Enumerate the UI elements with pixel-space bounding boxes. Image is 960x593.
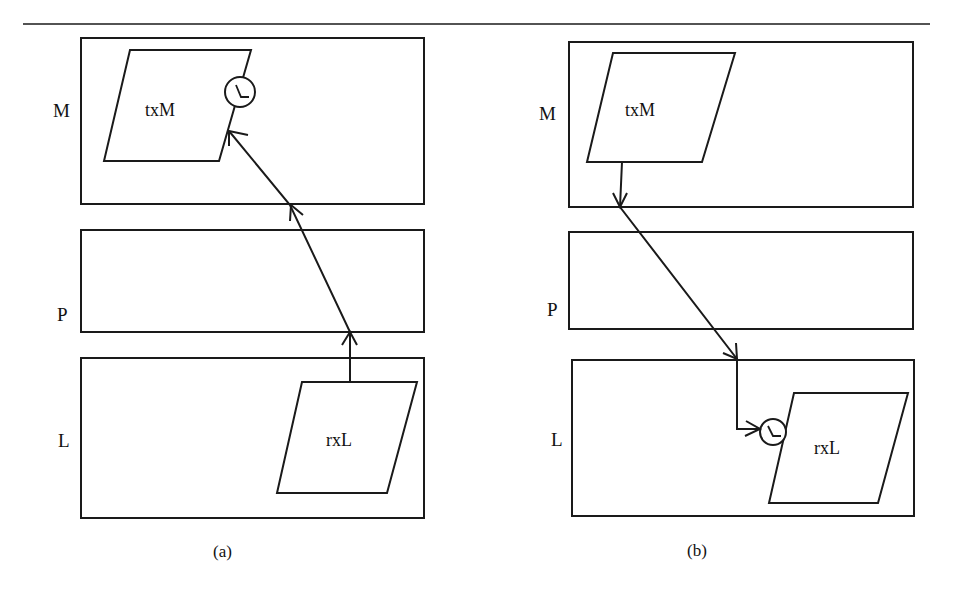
signal-path bbox=[229, 131, 350, 383]
layer-label-p: P bbox=[57, 304, 68, 325]
layer-label-m: M bbox=[539, 103, 556, 124]
panel-caption: (b) bbox=[687, 541, 707, 560]
txm-label: txM bbox=[145, 100, 175, 120]
layer-box-p bbox=[569, 232, 913, 329]
timer-clock-icon bbox=[760, 419, 786, 445]
panel-a bbox=[81, 38, 424, 518]
panel-b bbox=[569, 42, 914, 516]
panel-caption: (a) bbox=[213, 542, 232, 561]
rxl-label: rxL bbox=[326, 430, 352, 450]
layer-label-l: L bbox=[551, 429, 563, 450]
layer-label-p: P bbox=[547, 299, 558, 320]
layer-box-p bbox=[81, 230, 424, 332]
layer-label-l: L bbox=[58, 430, 70, 451]
signal-path bbox=[620, 162, 760, 429]
txm-label: txM bbox=[625, 100, 655, 120]
figure-canvas: M P L txM rxL (a) M P L txM rxL (b) bbox=[0, 0, 960, 593]
rxl-label: rxL bbox=[814, 438, 840, 458]
layer-label-m: M bbox=[53, 100, 70, 121]
txm-node bbox=[587, 53, 735, 162]
timer-clock-icon bbox=[225, 77, 255, 107]
